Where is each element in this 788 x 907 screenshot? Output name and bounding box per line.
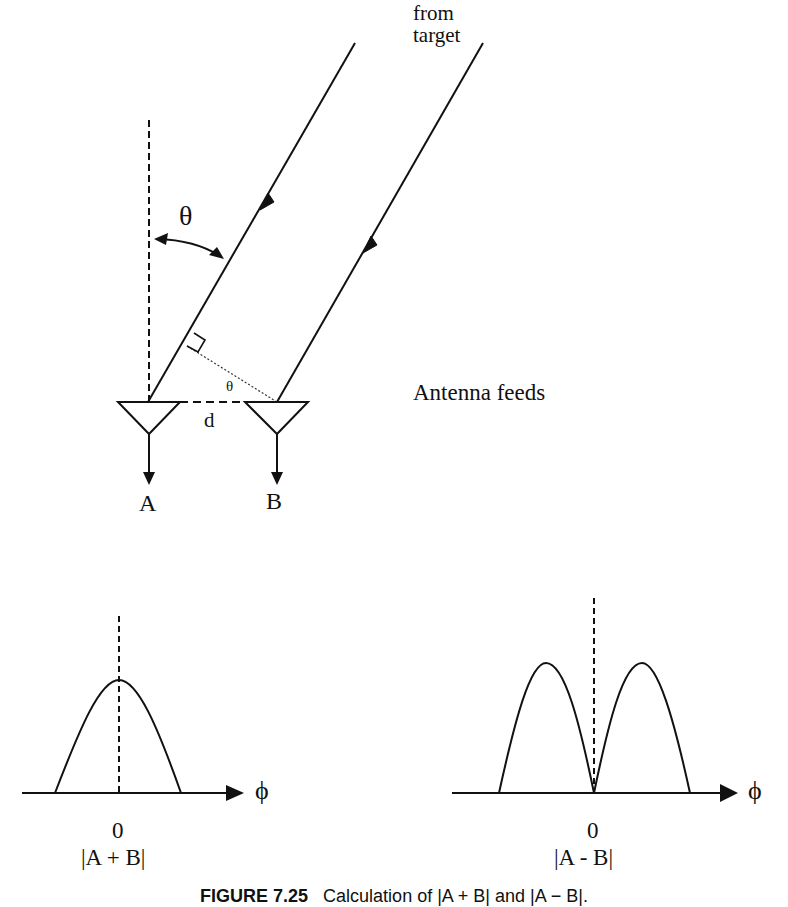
sum-pattern-label: |A + B| [81, 845, 145, 871]
antenna-b-label: B [266, 488, 282, 515]
antenna-b [245, 402, 308, 485]
right-angle-marker [187, 333, 205, 352]
angle-theta-small-label: θ [226, 378, 233, 395]
difference-axis-phi-label: ϕ [748, 776, 762, 806]
caption-text: Calculation of |A + B| and |A − B|. [323, 886, 588, 906]
angle-theta-label: θ [179, 200, 192, 232]
antenna-feeds-label: Antenna feeds [413, 380, 545, 406]
axis-arrow-icon [226, 785, 244, 801]
antenna-a-label: A [139, 490, 156, 517]
spacing-d-label: d [204, 408, 215, 433]
sum-axis-phi-label: ϕ [255, 776, 269, 806]
antenna-a [118, 402, 180, 485]
from-target-label: from target [413, 2, 460, 46]
difference-pattern-label: |A - B| [554, 845, 613, 871]
axis-arrow-icon [720, 784, 738, 802]
difference-pattern-plot [452, 598, 738, 802]
difference-origin-label: 0 [587, 818, 599, 844]
ray-arrow-icon [363, 236, 377, 253]
output-arrow-icon [271, 472, 283, 485]
output-arrow-icon [143, 472, 155, 485]
figure-caption: FIGURE 7.25 Calculation of |A + B| and |… [0, 886, 788, 907]
sum-origin-label: 0 [112, 818, 124, 844]
incoming-ray-b [277, 43, 483, 402]
caption-figure-number: FIGURE 7.25 [200, 886, 308, 906]
angle-arc [154, 233, 224, 259]
ray-arrow-icon [260, 193, 274, 210]
sum-pattern-plot [22, 616, 244, 801]
